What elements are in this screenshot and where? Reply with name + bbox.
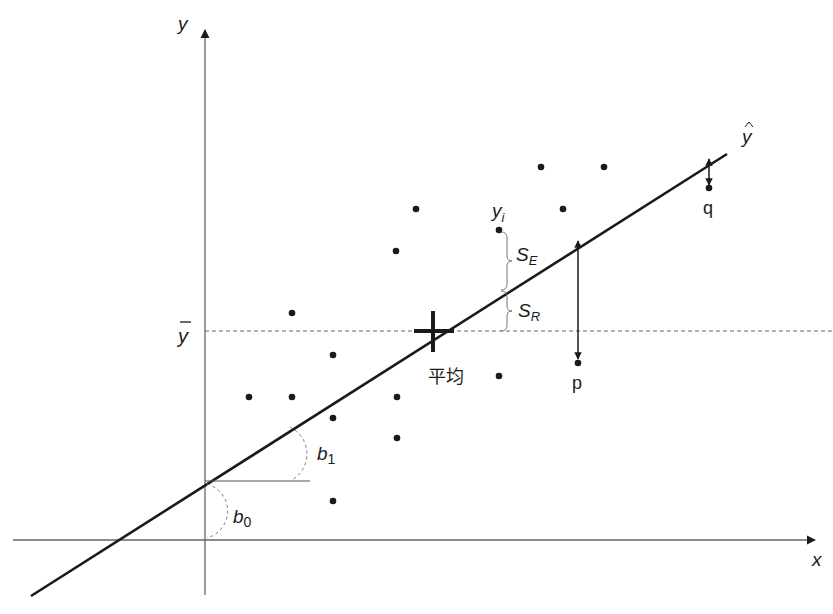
- data-point: [289, 310, 296, 317]
- q-label: q: [703, 198, 713, 218]
- regression-diagram: y x y y b0 b1: [0, 0, 833, 614]
- intercept-angle: [207, 484, 228, 538]
- data-point: [601, 164, 608, 171]
- yi-label: yi: [490, 200, 506, 225]
- data-point: [394, 435, 401, 442]
- data-point: [538, 164, 545, 171]
- data-point-q: [706, 185, 713, 192]
- se-label: SE: [516, 244, 538, 268]
- b1-label: b1: [317, 443, 336, 467]
- b0-label: b0: [233, 506, 252, 530]
- data-point: [496, 373, 503, 380]
- brace-se: [501, 232, 512, 290]
- p-label: p: [572, 373, 582, 393]
- data-point: [394, 394, 401, 401]
- data-point: [330, 352, 337, 359]
- data-point: [246, 394, 253, 401]
- data-point: [289, 394, 296, 401]
- mean-label: 平均: [428, 367, 464, 387]
- slope-angle: [205, 427, 310, 481]
- data-point: [330, 415, 337, 422]
- data-point-p: [575, 360, 582, 367]
- mean-cross-icon: [414, 311, 454, 352]
- sr-label: SR: [518, 300, 540, 324]
- data-point: [393, 248, 400, 255]
- data-point: [560, 206, 567, 213]
- data-point: [413, 206, 420, 213]
- data-point: [330, 498, 337, 505]
- y-hat-label: y: [740, 126, 753, 147]
- y-bar-label: y: [176, 325, 189, 347]
- regression-line: [31, 154, 727, 596]
- data-points: [246, 164, 713, 505]
- x-axis-label: x: [811, 549, 823, 570]
- y-axis-label: y: [176, 13, 189, 34]
